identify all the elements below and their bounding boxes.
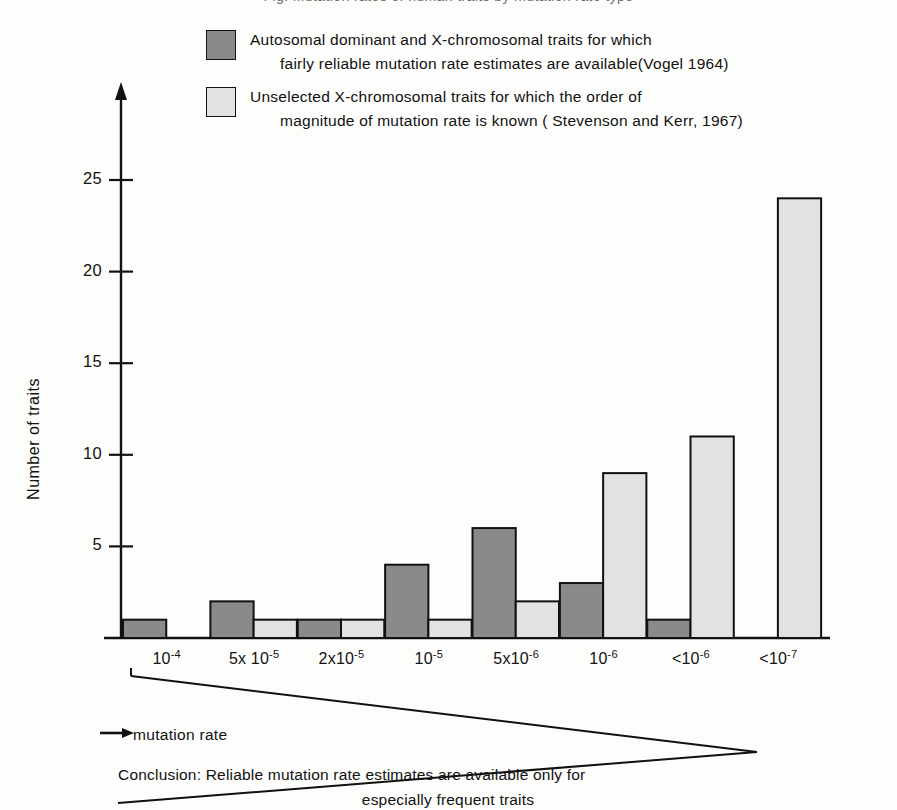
bar-light-6 xyxy=(691,436,734,638)
y-tick-label-10: 10 xyxy=(62,444,102,463)
y-tick-label-20: 20 xyxy=(62,261,102,280)
figure-root: Fig. Mutation rates of human traits by m… xyxy=(0,0,897,810)
bar-light-7 xyxy=(778,198,821,638)
bar-dark-0 xyxy=(123,620,166,638)
mutation-rate-arrow-icon xyxy=(100,728,134,738)
bar-light-1 xyxy=(254,620,297,638)
bar-dark-5 xyxy=(560,583,603,638)
x-tick-label-7: <10-7 xyxy=(722,648,835,668)
bar-dark-3 xyxy=(385,565,428,638)
y-tick-label-15: 15 xyxy=(62,352,102,371)
bar-dark-2 xyxy=(298,620,341,638)
y-tick-label-25: 25 xyxy=(62,169,102,188)
conclusion-note: Conclusion: Reliable mutation rate estim… xyxy=(118,762,838,810)
bar-light-3 xyxy=(428,620,471,638)
y-tick-label-5: 5 xyxy=(62,535,102,554)
bar-group xyxy=(123,198,821,638)
bar-dark-1 xyxy=(210,601,253,638)
bar-light-5 xyxy=(603,473,646,638)
bar-light-4 xyxy=(516,601,559,638)
conclusion-line-1: Conclusion: Reliable mutation rate estim… xyxy=(118,766,585,783)
x-axis-arrow-label: mutation rate xyxy=(133,726,227,744)
bar-chart xyxy=(0,0,897,810)
bar-light-2 xyxy=(341,620,384,638)
bar-dark-4 xyxy=(473,528,516,638)
y-axis-title: Number of traits xyxy=(25,319,43,559)
conclusion-line-2: especially frequent traits xyxy=(118,787,838,810)
bar-dark-6 xyxy=(647,620,690,638)
